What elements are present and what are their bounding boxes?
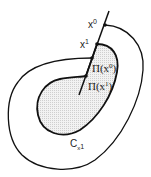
projection-diagram: x0 x1 Π(x0) Π(x1) Cx1 bbox=[0, 0, 151, 177]
point-x1 bbox=[95, 42, 99, 46]
label-pi-x0: Π(x0) bbox=[92, 62, 117, 75]
label-contour-c: Cx1 bbox=[70, 138, 84, 151]
label-pi-x1: Π(x1) bbox=[88, 80, 113, 93]
point-pi-x0 bbox=[90, 56, 94, 60]
point-pi-x1 bbox=[84, 74, 88, 78]
label-x1: x1 bbox=[80, 38, 89, 50]
point-x0 bbox=[103, 23, 107, 27]
inner-region bbox=[37, 44, 117, 135]
label-x0: x0 bbox=[88, 18, 97, 30]
